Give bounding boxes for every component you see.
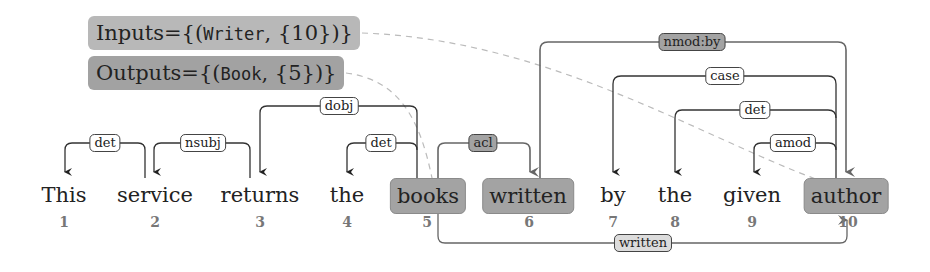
inputs-mid: , { (265, 21, 292, 45)
token-index-4: 4 (342, 214, 352, 230)
token-8: the (658, 178, 692, 212)
outputs-prefix: Outputs={( (96, 61, 221, 85)
token-5: books (390, 178, 466, 214)
outputs-link (346, 73, 432, 178)
arc-label-case: case (705, 67, 744, 85)
inputs-indices: 10 (291, 21, 318, 45)
token-index-3: 3 (255, 214, 265, 230)
token-1: This (41, 178, 86, 212)
inputs-prefix: Inputs={( (96, 21, 203, 45)
path-label-written: written (614, 234, 672, 252)
arc-label-nmod-by: nmod:by (659, 33, 726, 51)
outputs-mid: , { (261, 61, 288, 85)
inputs-suffix: })} (318, 21, 353, 45)
inputs-box: Inputs={(Writer, {10})} (88, 16, 360, 50)
arc-label-acl: acl (468, 134, 497, 152)
arc-label-dobj: dobj (320, 97, 359, 115)
arc-label-nsubj: nsubj (180, 134, 226, 152)
token-4: the (330, 178, 364, 212)
outputs-suffix: })} (302, 61, 337, 85)
token-index-1: 1 (59, 214, 69, 230)
token-3: returns (221, 178, 300, 212)
token-index-2: 2 (150, 214, 160, 230)
outputs-type: Book (221, 64, 262, 84)
inputs-type: Writer (203, 24, 264, 44)
token-10: author (804, 178, 889, 214)
token-index-8: 8 (670, 214, 680, 230)
outputs-indices: 5 (288, 61, 301, 85)
arc-label-det-4: det (365, 134, 396, 152)
token-index-10: 10 (838, 214, 857, 230)
token-9: given (723, 178, 781, 212)
token-index-6: 6 (524, 214, 534, 230)
arc-label-amod: amod (770, 134, 816, 152)
arc-label-det-1: det (89, 134, 120, 152)
arc-label-det-8: det (739, 101, 770, 119)
token-index-5: 5 (422, 214, 432, 230)
token-index-7: 7 (608, 214, 618, 230)
token-7: by (600, 178, 625, 212)
token-6: written (482, 178, 574, 214)
token-index-9: 9 (747, 214, 757, 230)
outputs-box: Outputs={(Book, {5})} (88, 56, 344, 90)
token-2: service (117, 178, 193, 212)
